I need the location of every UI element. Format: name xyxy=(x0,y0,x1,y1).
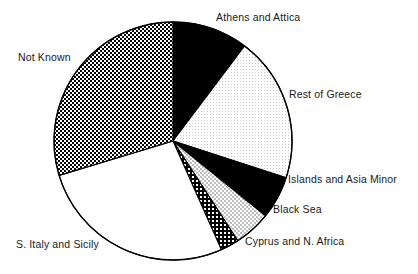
slice-label-athens-and-attica: Athens and Attica xyxy=(216,11,300,23)
pie-chart-canvas xyxy=(0,0,418,274)
slice-label-s-italy-and-sicily: S. Italy and Sicily xyxy=(16,238,99,250)
slice-label-islands-and-asia-minor: Islands and Asia Minor xyxy=(288,173,397,185)
slice-label-not-known: Not Known xyxy=(18,51,71,63)
slice-label-black-sea: Black Sea xyxy=(273,203,322,215)
slice-label-cyprus-and-n-africa: Cyprus and N. Africa xyxy=(245,235,344,247)
slice-label-rest-of-greece: Rest of Greece xyxy=(289,88,362,100)
pie-chart-figure: Athens and Attica Rest of Greece Islands… xyxy=(0,0,418,274)
